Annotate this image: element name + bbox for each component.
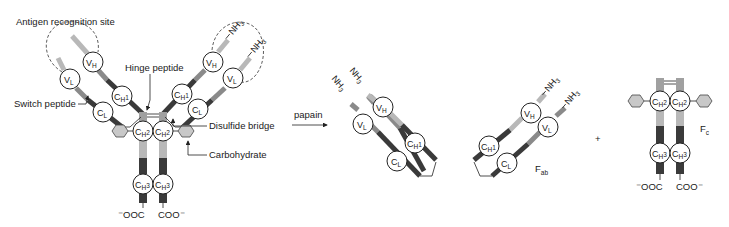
label-switch-peptide: Switch peptide — [14, 98, 76, 109]
domain-ch1-right: CH1 — [172, 84, 192, 104]
n-terminus-right-light: NH3 — [244, 35, 268, 60]
domain-vl-left: VL — [60, 69, 80, 89]
label-disulfide-bridge: Disulfide bridge — [209, 120, 274, 131]
domain-ch2-right: CH2 — [153, 121, 173, 141]
carbohydrate-fc-left-icon — [628, 95, 644, 107]
domain-vl-right: VL — [223, 68, 243, 88]
label-antigen-recognition-site: Antigen recognition site — [16, 16, 115, 27]
domain-vh-right: VH — [203, 52, 223, 72]
label-fab: Fab — [535, 163, 548, 176]
antibody-diagram: VH VL CH1 CL VH VL CH1 CL — [0, 0, 729, 227]
domain-cl-right: CL — [188, 99, 208, 119]
domain-cl-left: CL — [93, 102, 113, 122]
left-heavy-arm — [72, 36, 143, 114]
label-hinge-peptide: Hinge peptide — [125, 62, 184, 73]
fab-fragment-left: VH VL CH1 CL NH3 NH3 — [329, 66, 436, 176]
svg-text:NH3: NH3 — [347, 66, 366, 86]
fc-c-terminus-left: ⁻OOC — [636, 181, 663, 192]
carbohydrate-left-icon — [112, 125, 128, 137]
carbohydrate-right-icon — [178, 125, 194, 137]
carbohydrate-fc-right-icon — [696, 95, 712, 107]
plus-sign: + — [595, 133, 601, 144]
domain-ch3-left: CH3 — [133, 174, 153, 194]
domain-ch3-right: CH3 — [153, 174, 173, 194]
svg-text:NH3: NH3 — [329, 74, 348, 94]
hinge-disulfide — [147, 114, 159, 117]
label-fc: Fc — [700, 123, 710, 136]
c-terminus-right: COO⁻ — [158, 209, 185, 220]
c-terminus-left: ⁻OOC — [118, 209, 145, 220]
domain-ch1-left: CH1 — [112, 86, 132, 106]
fc-c-terminus-right: COO⁻ — [676, 181, 703, 192]
domain-ch2-left: CH2 — [133, 121, 153, 141]
domain-vh-left: VH — [83, 52, 103, 72]
papain-arrow: papain — [292, 109, 327, 125]
svg-text:papain: papain — [294, 109, 323, 120]
n-terminus-right-heavy: NH3 — [222, 17, 246, 42]
fab-fragment-right: VH VL CH1 CL NH3 NH3 Fab — [474, 74, 582, 176]
label-carbohydrate: Carbohydrate — [209, 149, 267, 160]
fc-fragment: CH2 CH2 CH3 CH3 ⁻OOC COO⁻ Fc — [628, 78, 712, 192]
intact-antibody: VH VL CH1 CL VH VL CH1 CL — [14, 16, 274, 220]
